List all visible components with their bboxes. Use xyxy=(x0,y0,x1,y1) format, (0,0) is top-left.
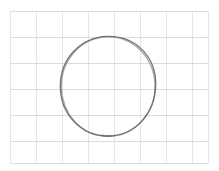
sketch-svg xyxy=(0,0,219,171)
drawing-canvas xyxy=(0,0,219,171)
canvas-background xyxy=(0,0,219,171)
